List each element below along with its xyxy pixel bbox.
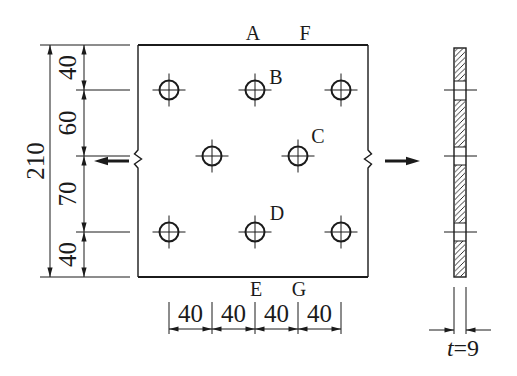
rivet-holes	[153, 74, 358, 249]
dim-vseg-4: 40	[54, 242, 81, 267]
load-arrow-right-icon	[385, 157, 420, 165]
plate-right-edge-break-icon	[365, 45, 372, 277]
dim-total-height: 210	[22, 142, 49, 180]
hatch-section-3	[455, 165, 465, 223]
thickness-label: t=9	[447, 335, 479, 361]
point-label-d: D	[270, 202, 284, 224]
dim-hseg-4: 40	[307, 300, 332, 327]
hole-b	[239, 74, 272, 107]
plate-left-edge-break-icon	[135, 45, 142, 277]
point-label-b: B	[269, 66, 282, 88]
dim-hseg-3: 40	[264, 300, 289, 327]
hole-c	[282, 140, 315, 173]
thickness-dimension: t=9	[429, 287, 491, 361]
hole-top-left	[153, 74, 186, 107]
hatch-section-4	[455, 241, 465, 277]
horizontal-dimension-chain: 40 40 40 40	[169, 300, 341, 334]
point-label-a: A	[246, 22, 261, 44]
point-label-e: E	[250, 278, 262, 300]
hole-d	[239, 216, 272, 249]
load-arrow-left-icon	[94, 157, 129, 165]
point-label-g: G	[292, 278, 306, 300]
hatch-section-2	[455, 100, 465, 147]
dim-vseg-3: 70	[54, 182, 81, 207]
point-labels: A F B C D E G	[246, 22, 325, 300]
side-section-view	[444, 48, 477, 277]
hole-bottom-right	[325, 216, 358, 249]
dim-hseg-1: 40	[178, 300, 203, 327]
hole-mid-left	[196, 140, 229, 173]
thickness-value: =9	[454, 335, 480, 361]
dim-vseg-1: 40	[54, 55, 81, 80]
point-label-f: F	[299, 22, 310, 44]
hole-bottom-left	[153, 216, 186, 249]
point-label-c: C	[311, 125, 324, 147]
dim-vseg-2: 60	[54, 111, 81, 136]
hatch-section-1	[455, 49, 465, 82]
engineering-drawing: A F B C D E G 210	[0, 0, 517, 376]
hole-top-right	[325, 74, 358, 107]
dim-hseg-2: 40	[221, 300, 246, 327]
